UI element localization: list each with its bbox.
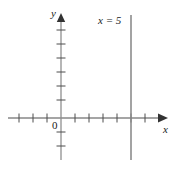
y-axis-group — [57, 13, 66, 160]
x-axis-label: x — [163, 124, 168, 135]
y-axis-arrowhead — [57, 13, 65, 22]
graph-canvas — [0, 0, 181, 170]
line-equation-label: x = 5 — [98, 15, 121, 26]
y-axis-label: y — [51, 8, 56, 19]
x-axis-group — [8, 114, 168, 123]
origin-label: 0 — [52, 120, 58, 131]
x-axis-arrowhead — [158, 114, 168, 123]
coordinate-plane-figure: y x 0 x = 5 — [0, 0, 181, 170]
